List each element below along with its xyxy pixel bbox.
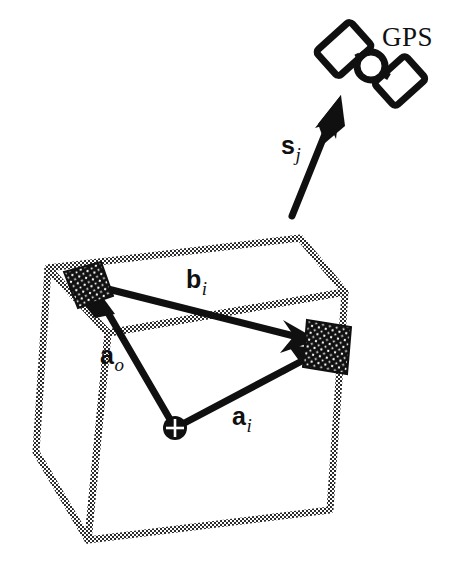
target-marker-right [303, 320, 351, 374]
vector-a-i-subscript: i [246, 415, 251, 436]
vector-s-j-symbol: s [281, 131, 295, 159]
satellite-strut-right [384, 74, 389, 77]
satellite-body [357, 52, 385, 80]
vector-s-j-label: sj [281, 133, 301, 164]
vector-a-o-symbol: a [100, 341, 114, 369]
vector-s-j-subscript: j [295, 144, 300, 165]
vector-a-i-symbol: a [232, 402, 246, 430]
gps-vector-diagram [0, 0, 460, 588]
vector-b-i-subscript: i [202, 278, 207, 299]
vector-b-i-symbol: b [186, 265, 201, 293]
vector-a-o-label: ao [100, 343, 124, 374]
vector-a-i-label: ai [232, 404, 252, 435]
target-marker-left [64, 262, 113, 308]
gps-label: GPS [382, 22, 433, 53]
origin-marker [163, 416, 187, 440]
vector-b-i-label: bi [186, 267, 207, 298]
satellite-solar-panel-left [316, 21, 373, 77]
vector-b-i [100, 287, 318, 353]
vector-a-o-subscript: o [114, 354, 124, 375]
satellite-strut-left [356, 56, 360, 58]
